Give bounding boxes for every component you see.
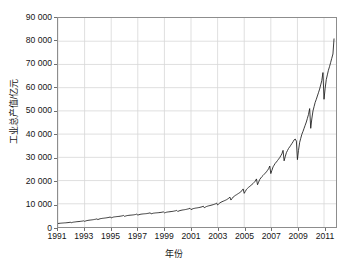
x-tick-mark — [245, 228, 246, 231]
x-axis-title: 年份 — [0, 247, 348, 260]
data-series-line — [58, 18, 336, 227]
plot-area — [57, 17, 337, 228]
x-tick-mark — [84, 228, 85, 231]
x-tick-mark — [298, 228, 299, 231]
x-tick-mark — [164, 228, 165, 231]
x-tick-mark — [191, 228, 192, 231]
y-tick-label: 0 — [0, 224, 52, 232]
y-tick-label: 50 000 — [0, 106, 52, 114]
y-tick-label: 30 000 — [0, 153, 52, 161]
x-tick-mark — [111, 228, 112, 231]
y-tick-label: 90 000 — [0, 13, 52, 21]
x-tick-label: 2011 — [308, 232, 342, 241]
y-tick-label: 80 000 — [0, 36, 52, 44]
x-tick-mark — [218, 228, 219, 231]
chart-figure: 工业总产值/亿元 010 00020 00030 00040 00050 000… — [0, 0, 348, 266]
x-tick-mark — [57, 228, 58, 231]
x-tick-mark — [325, 228, 326, 231]
y-axis-title-wrapper: 工业总产值/亿元 — [0, 0, 1, 1]
x-tick-mark — [137, 228, 138, 231]
y-tick-label: 70 000 — [0, 59, 52, 67]
y-tick-label: 40 000 — [0, 130, 52, 138]
y-tick-label: 20 000 — [0, 177, 52, 185]
y-tick-label: 60 000 — [0, 83, 52, 91]
y-tick-label: 10 000 — [0, 200, 52, 208]
x-tick-mark — [271, 228, 272, 231]
